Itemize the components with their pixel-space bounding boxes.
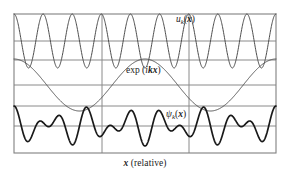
x-axis-caption-text: (relative) xyxy=(128,158,166,168)
curve-label-psi-k: ψk(x) xyxy=(166,110,186,121)
curve-label-u-k: uk(x) xyxy=(176,15,195,26)
curve-label-exp-ikx: exp (ikx) xyxy=(126,66,161,76)
label-exp-close: ) xyxy=(157,65,160,75)
plot-canvas xyxy=(0,0,290,179)
label-psi-close: ) xyxy=(183,109,186,119)
horizontal-grid-lines xyxy=(14,41,276,126)
x-axis-caption: x (relative) xyxy=(0,158,290,168)
label-u-close: ) xyxy=(192,14,195,24)
label-exp-fn: exp xyxy=(126,65,140,75)
plot-frame xyxy=(14,14,276,153)
grid-lines xyxy=(14,14,276,153)
bloch-function-figure: uk(x) exp (ikx) ψk(x) x (relative) xyxy=(0,0,290,179)
